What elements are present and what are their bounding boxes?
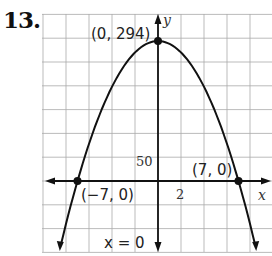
- x-tick-label: 2: [176, 187, 184, 202]
- right-intercept-label: (7, 0): [192, 161, 232, 179]
- y-axis-down-arrow-icon: [155, 242, 162, 252]
- y-axis-label: y: [162, 12, 172, 28]
- x-axis-label: x: [258, 187, 266, 203]
- curve-right-arrow-icon: [252, 241, 259, 251]
- x-axis-right-arrow-icon: [261, 178, 271, 185]
- left-intercept-label: (−7, 0): [81, 186, 134, 204]
- curve-left-arrow-icon: [57, 241, 64, 251]
- grid: [42, 14, 272, 252]
- key-point: [154, 37, 162, 45]
- y-tick-label: 50: [136, 154, 153, 169]
- axis-of-symmetry-label: x = 0: [104, 234, 145, 252]
- key-point: [235, 177, 243, 185]
- key-point: [74, 177, 82, 185]
- x-axis-left-arrow-icon: [45, 178, 55, 185]
- y-axis-up-arrow-icon: [155, 14, 162, 24]
- vertex-label: (0, 294): [91, 25, 150, 43]
- labels: (0, 294)(−7, 0)(7, 0)x = 0yx502: [81, 12, 266, 252]
- parabola-chart: (0, 294)(−7, 0)(7, 0)x = 0yx502: [0, 0, 272, 256]
